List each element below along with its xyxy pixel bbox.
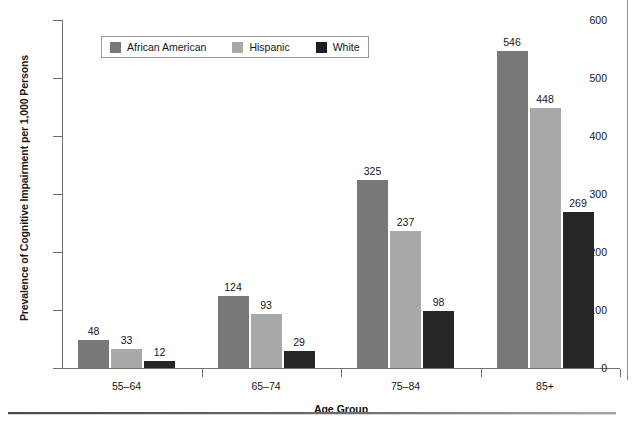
legend-item: Hispanic: [232, 37, 289, 57]
legend-swatch-african-american: [110, 42, 121, 53]
legend-item-label: Hispanic: [249, 42, 289, 53]
y-axis-tick: [53, 194, 62, 195]
x-axis-category-label: 55–64: [87, 380, 167, 392]
y-axis-tick-label: 500: [589, 73, 607, 83]
bar-value-label: 325: [364, 166, 382, 177]
legend-swatch-hispanic: [232, 42, 243, 53]
bar: 12: [144, 361, 175, 368]
bar: 48: [78, 340, 109, 368]
legend-item: African American: [110, 37, 206, 57]
y-axis-tick: [53, 78, 62, 79]
bar: 237: [390, 231, 421, 368]
y-axis-tick: [53, 252, 62, 253]
bar: 29: [284, 351, 315, 368]
bar-value-label: 29: [293, 337, 305, 348]
x-axis-tick: [341, 369, 342, 377]
bar-value-label: 33: [121, 335, 133, 346]
bar: 33: [111, 349, 142, 368]
x-axis-tick: [481, 369, 482, 377]
bar-value-label: 546: [503, 37, 521, 48]
bar: 269: [563, 212, 594, 368]
y-axis-line: [62, 20, 63, 369]
bar: 448: [530, 108, 561, 368]
x-axis-tick: [620, 369, 621, 377]
y-axis-tick-label: 600: [589, 15, 607, 25]
bar-value-label: 93: [260, 300, 272, 311]
bar: 124: [218, 296, 249, 368]
y-axis-tick-label: 0: [601, 363, 607, 373]
bar-value-label: 448: [536, 94, 554, 105]
y-axis-tick-label: 400: [589, 131, 607, 141]
bar: 325: [357, 180, 388, 369]
legend-swatch-white: [316, 42, 327, 53]
y-axis-tick-label: 300: [589, 189, 607, 199]
plot-area: 0100200300400500600 48331212493293252379…: [62, 20, 620, 368]
bar: 93: [251, 314, 282, 368]
y-axis-tick: [53, 368, 62, 369]
y-axis-title: Prevalence of Cognitive Impairment per 1…: [18, 0, 30, 378]
bar-value-label: 48: [88, 326, 100, 337]
legend-item-label: African American: [127, 42, 206, 53]
y-axis-tick: [53, 136, 62, 137]
legend-item-label: White: [333, 42, 360, 53]
bar-value-label: 12: [154, 347, 166, 358]
bar-value-label: 98: [433, 297, 445, 308]
chart-legend: African AmericanHispanicWhite: [101, 36, 369, 58]
y-axis-tick: [53, 20, 62, 21]
x-axis-category-label: 85+: [505, 380, 585, 392]
bar-value-label: 269: [569, 198, 587, 209]
y-axis-tick: [53, 310, 62, 311]
x-axis-category-label: 65–74: [226, 380, 306, 392]
bar: 98: [423, 311, 454, 368]
legend-item: White: [316, 37, 360, 57]
frame-bottom-rule-shadow: [8, 414, 616, 415]
frame-right-border: [627, 0, 628, 380]
bar-chart-figure: Prevalence of Cognitive Impairment per 1…: [0, 0, 636, 426]
bar-value-label: 237: [397, 217, 415, 228]
x-axis-category-label: 75–84: [366, 380, 446, 392]
bar-value-label: 124: [224, 282, 242, 293]
bar: 546: [497, 51, 528, 368]
x-axis-tick: [202, 369, 203, 377]
